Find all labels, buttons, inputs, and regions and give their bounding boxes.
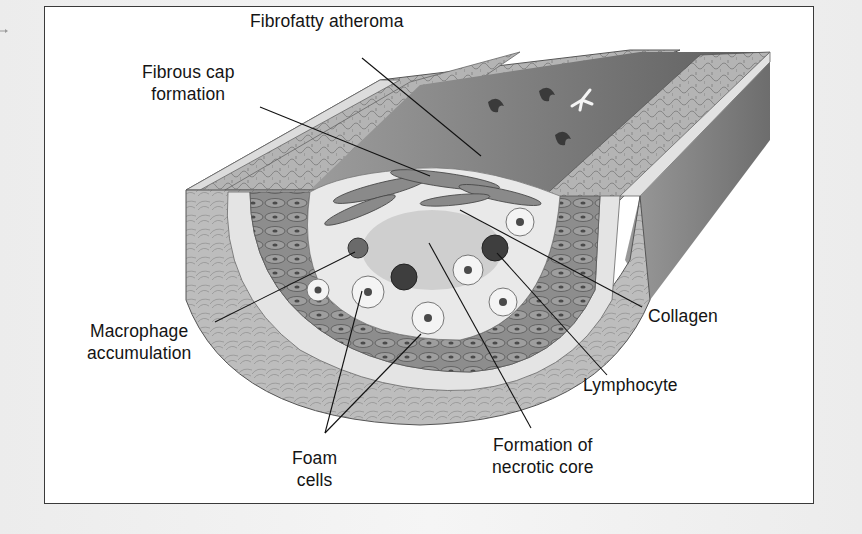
label-foam-cells: Foam cells <box>292 447 337 491</box>
label-line: formation <box>142 83 235 105</box>
label-collagen: Collagen <box>648 305 718 327</box>
label-line: Fibrous cap <box>142 61 235 83</box>
label-formation-of-necrotic-core: Formation of necrotic core <box>492 434 593 478</box>
label-line: accumulation <box>87 342 191 364</box>
lymphocyte <box>391 264 417 290</box>
label-lymphocyte: Lymphocyte <box>583 374 678 396</box>
label-line: Collagen <box>648 305 718 327</box>
label-fibrofatty-atheroma: Fibrofatty atheroma <box>250 10 404 32</box>
macrophage <box>348 238 368 258</box>
artery-cross-section-illustration <box>0 0 862 534</box>
label-line: Formation of <box>492 434 593 456</box>
label-line: necrotic core <box>492 456 593 478</box>
label-line: Foam <box>292 447 337 469</box>
lymphocyte <box>482 235 508 261</box>
label-line: Macrophage <box>87 320 191 342</box>
label-line: cells <box>292 469 337 491</box>
label-line: Lymphocyte <box>583 374 678 396</box>
label-fibrous-cap-formation: Fibrous cap formation <box>142 61 235 105</box>
label-macrophage-accumulation: Macrophage accumulation <box>87 320 191 364</box>
label-line: Fibrofatty atheroma <box>250 10 404 32</box>
